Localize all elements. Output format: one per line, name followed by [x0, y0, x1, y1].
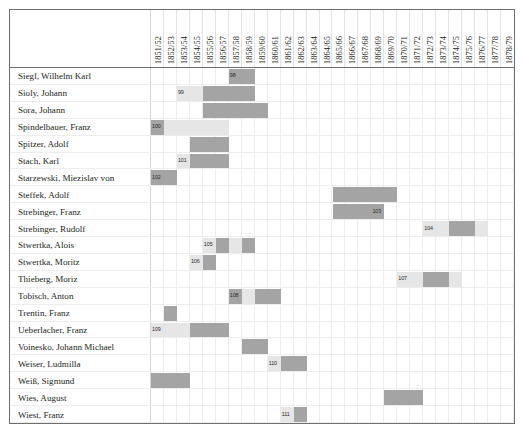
table-row[interactable]: Strebinger, Franz103	[10, 203, 514, 220]
grid-cell	[151, 203, 164, 220]
grid-cell	[307, 355, 320, 372]
timeline-bar[interactable]	[151, 373, 190, 388]
timeline-bar[interactable]	[229, 238, 242, 253]
grid-cell	[307, 254, 320, 271]
grid-cell	[345, 288, 358, 305]
grid-cell	[436, 254, 449, 271]
table-row[interactable]: Weiser, Ludmilla110	[10, 355, 514, 372]
table-row[interactable]: Steffek, Adolf	[10, 186, 514, 203]
grid-cell	[268, 271, 281, 288]
timeline-bar[interactable]	[384, 390, 423, 405]
timeline-bar[interactable]: 106	[190, 255, 203, 270]
year-label: 1866/67	[348, 36, 357, 64]
table-row[interactable]: Siegl, Wilhelm Karl98	[10, 68, 514, 85]
timeline-bar[interactable]: 99	[177, 86, 190, 101]
table-row[interactable]: Spitzer, Adolf	[10, 136, 514, 153]
table-row[interactable]: Sora, Johann	[10, 102, 514, 119]
year-label: 1877/78	[491, 36, 500, 64]
timeline-bar[interactable]	[203, 255, 216, 270]
timeline-bar[interactable]: 104	[423, 221, 436, 236]
timeline-bar[interactable]	[255, 289, 281, 304]
grid-cell	[449, 186, 462, 203]
grid-cell	[358, 389, 371, 406]
grid-cell	[242, 271, 255, 288]
table-row[interactable]: Spindelbauer, Franz100	[10, 119, 514, 136]
grid-cell	[397, 136, 410, 153]
timeline-bar[interactable]	[294, 407, 307, 422]
timeline-bar[interactable]: 101	[177, 154, 190, 169]
grid-cell	[242, 186, 255, 203]
table-row[interactable]: Strebinger, Rudolf104	[10, 220, 514, 237]
table-row[interactable]: Starzewski, Miezislav von102	[10, 169, 514, 186]
grid-cell	[151, 220, 164, 237]
timeline-bar[interactable]	[333, 204, 372, 219]
timeline-bar[interactable]: 110	[268, 356, 281, 371]
timeline-bar[interactable]: 105	[203, 238, 216, 253]
grid-cell	[177, 237, 190, 254]
table-row[interactable]: Ueberlacher, Franz109	[10, 322, 514, 339]
timeline-bar[interactable]: 100	[151, 120, 164, 135]
grid-cell	[423, 102, 436, 119]
grid-cell	[423, 203, 436, 220]
grid-cell	[384, 169, 397, 186]
timeline-bar[interactable]	[216, 238, 229, 253]
table-row[interactable]: Wies, August	[10, 389, 514, 406]
grid-cell	[177, 254, 190, 271]
grid-cell	[410, 372, 423, 389]
grid-cell	[397, 85, 410, 102]
grid-cell	[488, 203, 501, 220]
grid-cell	[488, 372, 501, 389]
timeline-bar[interactable]	[242, 69, 255, 84]
timeline-bar[interactable]	[475, 221, 488, 236]
timeline-bar[interactable]	[190, 86, 203, 101]
timeline-bar[interactable]: 98	[229, 69, 242, 84]
grid-cell	[358, 338, 371, 355]
table-row[interactable]: Tobisch, Anton108	[10, 288, 514, 305]
person-name-label: Sioly, Johann	[10, 85, 151, 102]
timeline-bar[interactable]	[164, 170, 177, 185]
grid-cell	[371, 271, 384, 288]
timeline-bar[interactable]: 102	[151, 170, 164, 185]
person-name-label: Wies, August	[10, 389, 151, 406]
timeline-bar[interactable]	[333, 187, 398, 202]
timeline-bar[interactable]	[203, 103, 268, 118]
grid-cell	[216, 305, 229, 322]
timeline-bar[interactable]	[164, 120, 229, 135]
timeline-bar[interactable]	[164, 306, 177, 321]
timeline-bar[interactable]	[190, 323, 229, 338]
timeline-bar[interactable]: 109	[151, 323, 164, 338]
table-row[interactable]: Stach, Karl101	[10, 153, 514, 170]
table-row[interactable]: Voinesko, Johann Michael	[10, 338, 514, 355]
table-row[interactable]: Stwertka, Moritz106	[10, 254, 514, 271]
table-row[interactable]: Thieberg, Moriz107	[10, 271, 514, 288]
timeline-bar[interactable]	[190, 137, 229, 152]
timeline-bar[interactable]	[410, 272, 423, 287]
grid-cell	[449, 169, 462, 186]
table-row[interactable]: Trentin, Franz	[10, 305, 514, 322]
timeline-bar[interactable]: 103	[371, 204, 384, 219]
timeline-bar[interactable]	[190, 154, 229, 169]
timeline-bar[interactable]	[436, 221, 449, 236]
table-row[interactable]: Weiß, Sigmund	[10, 372, 514, 389]
grid-cell	[216, 68, 229, 85]
timeline-bar[interactable]	[242, 339, 268, 354]
timeline-bar[interactable]	[242, 238, 255, 253]
table-row[interactable]: Stwertka, Alois105	[10, 237, 514, 254]
table-row[interactable]: Wiest, Franz111	[10, 406, 514, 423]
timeline-bar[interactable]: 107	[397, 272, 410, 287]
timeline-bar[interactable]	[242, 289, 255, 304]
timeline-bar[interactable]: 108	[229, 289, 242, 304]
timeline-bar[interactable]: 111	[281, 407, 294, 422]
grid-cell	[371, 237, 384, 254]
timeline-bar[interactable]	[449, 272, 462, 287]
timeline-bar[interactable]	[164, 323, 190, 338]
timeline-bar[interactable]	[449, 221, 475, 236]
grid-cell	[255, 68, 268, 85]
table-row[interactable]: Sioly, Johann99	[10, 85, 514, 102]
timeline-bar[interactable]	[203, 86, 255, 101]
timeline-bar[interactable]	[281, 356, 307, 371]
timeline-bar[interactable]	[423, 272, 449, 287]
year-column-header: 1878/79	[501, 10, 514, 67]
grid-cell	[436, 338, 449, 355]
year-label: 1853/54	[180, 36, 189, 64]
